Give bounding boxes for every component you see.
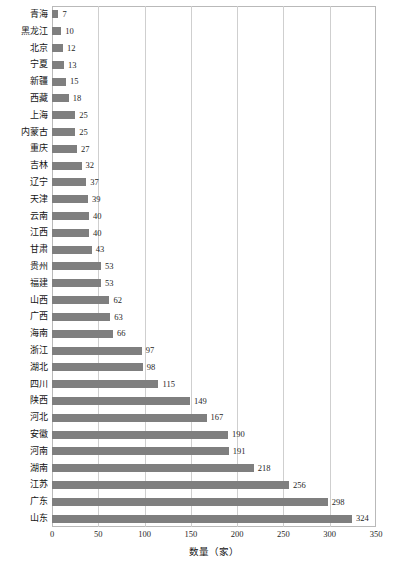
bar[interactable] xyxy=(52,10,58,18)
bar[interactable] xyxy=(52,262,101,270)
x-tick-label-0: 0 xyxy=(50,530,54,539)
bar[interactable] xyxy=(52,27,61,35)
bar[interactable] xyxy=(52,414,207,422)
bar-row: 25 xyxy=(52,124,376,141)
bar-row: 37 xyxy=(52,174,376,191)
bar-value-label: 115 xyxy=(162,380,174,389)
category-label: 江苏 xyxy=(0,477,48,494)
bar[interactable] xyxy=(52,195,88,203)
bar-value-label: 27 xyxy=(81,145,90,154)
bar[interactable] xyxy=(52,464,254,472)
bar-value-label: 256 xyxy=(293,481,306,490)
bar[interactable] xyxy=(52,313,110,321)
bar[interactable] xyxy=(52,44,63,52)
bar-row: 40 xyxy=(52,224,376,241)
bar[interactable] xyxy=(52,347,142,355)
bar-row: 27 xyxy=(52,140,376,157)
bar-value-label: 298 xyxy=(332,498,345,507)
bar-value-label: 15 xyxy=(70,77,79,86)
bar-row: 40 xyxy=(52,208,376,225)
bar[interactable] xyxy=(52,145,77,153)
category-label: 山西 xyxy=(0,292,48,309)
category-label: 山东 xyxy=(0,510,48,527)
bar[interactable] xyxy=(52,380,158,388)
bar[interactable] xyxy=(52,498,328,506)
bar-row: 190 xyxy=(52,426,376,443)
category-label: 湖南 xyxy=(0,460,48,477)
category-label: 江西 xyxy=(0,224,48,241)
bar-row: 15 xyxy=(52,73,376,90)
bar[interactable] xyxy=(52,515,352,523)
bar[interactable] xyxy=(52,111,75,119)
bar[interactable] xyxy=(52,162,82,170)
bar[interactable] xyxy=(52,397,190,405)
bar-value-label: 53 xyxy=(105,279,114,288)
x-tick-label-200: 200 xyxy=(231,530,244,539)
category-label: 上海 xyxy=(0,107,48,124)
bar-value-label: 10 xyxy=(65,27,74,36)
bar-row: 12 xyxy=(52,40,376,57)
bar-row: 7 xyxy=(52,6,376,23)
bar-value-label: 43 xyxy=(96,245,105,254)
bar-row: 43 xyxy=(52,241,376,258)
category-label: 浙江 xyxy=(0,342,48,359)
bar-value-label: 37 xyxy=(90,178,99,187)
x-axis-title: 数量（家） xyxy=(52,544,376,558)
bar-value-label: 32 xyxy=(86,161,95,170)
bar-row: 98 xyxy=(52,359,376,376)
bar-value-label: 13 xyxy=(68,61,77,70)
bar-value-label: 98 xyxy=(147,363,156,372)
bar-row: 63 xyxy=(52,309,376,326)
bar-value-label: 218 xyxy=(258,464,271,473)
category-axis-labels: 青海黑龙江北京宁夏新疆西藏上海内蒙古重庆吉林辽宁天津云南江西甘肃贵州福建山西广西… xyxy=(0,6,48,527)
bar-value-label: 149 xyxy=(194,397,207,406)
bar-row: 115 xyxy=(52,376,376,393)
bar-value-label: 7 xyxy=(62,10,66,19)
category-label: 广东 xyxy=(0,493,48,510)
bar-series: 7101213151825252732373940404353536263669… xyxy=(52,6,376,527)
bar[interactable] xyxy=(52,78,66,86)
bar[interactable] xyxy=(52,296,109,304)
x-tick-label-250: 250 xyxy=(277,530,290,539)
bar[interactable] xyxy=(52,447,229,455)
category-label: 河南 xyxy=(0,443,48,460)
bar-chart: 7101213151825252732373940404353536263669… xyxy=(0,0,409,569)
x-tick-label-350: 350 xyxy=(370,530,383,539)
category-label: 福建 xyxy=(0,275,48,292)
category-label: 甘肃 xyxy=(0,241,48,258)
category-label: 广西 xyxy=(0,309,48,326)
bar-row: 62 xyxy=(52,292,376,309)
category-label: 陕西 xyxy=(0,393,48,410)
category-label: 宁夏 xyxy=(0,56,48,73)
bar-value-label: 62 xyxy=(113,296,122,305)
category-label: 天津 xyxy=(0,191,48,208)
bar[interactable] xyxy=(52,431,228,439)
bar-row: 32 xyxy=(52,157,376,174)
category-label: 吉林 xyxy=(0,157,48,174)
bar-value-label: 53 xyxy=(105,262,114,271)
bar[interactable] xyxy=(52,61,64,69)
bar[interactable] xyxy=(52,279,101,287)
category-label: 青海 xyxy=(0,6,48,23)
bar-value-label: 25 xyxy=(79,111,88,120)
category-label: 北京 xyxy=(0,40,48,57)
bar[interactable] xyxy=(52,94,69,102)
bar-value-label: 191 xyxy=(233,447,246,456)
bar[interactable] xyxy=(52,128,75,136)
bar-row: 218 xyxy=(52,460,376,477)
bar-value-label: 12 xyxy=(67,44,76,53)
bar[interactable] xyxy=(52,178,86,186)
bar[interactable] xyxy=(52,330,113,338)
bar[interactable] xyxy=(52,363,143,371)
bar-row: 25 xyxy=(52,107,376,124)
category-label: 四川 xyxy=(0,376,48,393)
bar-value-label: 18 xyxy=(73,94,82,103)
bar-value-label: 66 xyxy=(117,329,126,338)
bar[interactable] xyxy=(52,246,92,254)
bar-row: 298 xyxy=(52,493,376,510)
bar-row: 167 xyxy=(52,409,376,426)
bar[interactable] xyxy=(52,212,89,220)
bar[interactable] xyxy=(52,481,289,489)
bar[interactable] xyxy=(52,229,89,237)
category-label: 辽宁 xyxy=(0,174,48,191)
